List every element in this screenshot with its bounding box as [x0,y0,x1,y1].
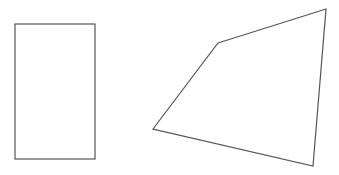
diagram-canvas [0,0,339,175]
rectangle-shape [15,24,95,159]
quadrilateral-shape [153,9,326,166]
